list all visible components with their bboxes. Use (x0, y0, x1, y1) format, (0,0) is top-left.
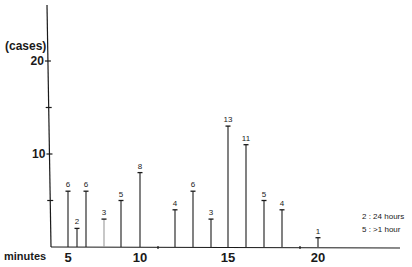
stem-value-label: 6 (191, 180, 196, 189)
stems: 6263584631311541 (66, 115, 321, 247)
x-tick-label: 20 (311, 250, 325, 265)
y-tick-label: 20 (31, 54, 45, 68)
stem-value-label: 2 (75, 217, 80, 226)
x-axis-label: minutes (4, 250, 46, 262)
stem-value-label: 4 (280, 199, 285, 208)
legend-note-over-1-hour: 5 : >1 hour (362, 225, 400, 234)
stem-value-label: 6 (84, 180, 89, 189)
legend-note-24-hours: 2 : 24 hours (362, 212, 404, 221)
axes (47, 5, 400, 248)
stem-value-label: 5 (119, 190, 124, 199)
x-axis (51, 247, 400, 248)
stem-value-label: 4 (173, 199, 178, 208)
stem-value-label: 6 (66, 180, 71, 189)
stem-value-label: 11 (242, 134, 251, 143)
stem-value-label: 5 (262, 190, 267, 199)
y-axis-label: (cases) (5, 39, 46, 53)
stem-chart: 1020 5101520 6263584631311541 (0, 0, 412, 267)
x-tick-label: 15 (221, 250, 235, 265)
stem-value-label: 8 (138, 162, 143, 171)
y-tick-label: 10 (32, 147, 46, 161)
stem-value-label: 13 (224, 115, 233, 124)
stem-value-label: 3 (209, 208, 214, 217)
stem-value-label: 3 (102, 208, 107, 217)
x-ticks: 5101520 (64, 246, 325, 265)
y-axis (47, 5, 51, 247)
stem-value-label: 1 (316, 227, 321, 236)
x-tick-label: 5 (64, 250, 71, 265)
x-tick-label: 10 (133, 250, 147, 265)
